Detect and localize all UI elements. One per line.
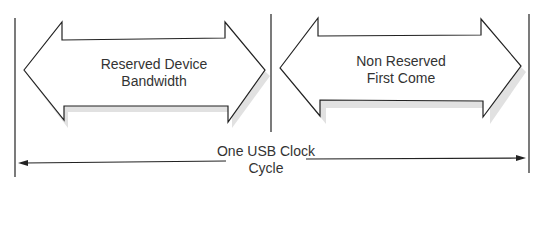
non-reserved-line2: First Come [326, 70, 476, 87]
non-reserved-line1: Non Reserved [326, 53, 476, 70]
cycle-label: One USB Clock Cycle [206, 143, 326, 177]
cycle-label-line2: Cycle [206, 160, 326, 177]
cycle-arrow-left-line [24, 161, 226, 163]
cycle-arrow-right-head [516, 155, 526, 161]
cycle-label-line1: One USB Clock [206, 143, 326, 160]
reserved-bandwidth-label: Reserved Device Bandwidth [74, 56, 234, 90]
reserved-bandwidth-line2: Bandwidth [74, 73, 234, 90]
cycle-arrow-left-head [18, 160, 28, 166]
reserved-bandwidth-line1: Reserved Device [74, 56, 234, 73]
non-reserved-label: Non Reserved First Come [326, 53, 476, 87]
cycle-arrow-right-line [306, 158, 520, 159]
